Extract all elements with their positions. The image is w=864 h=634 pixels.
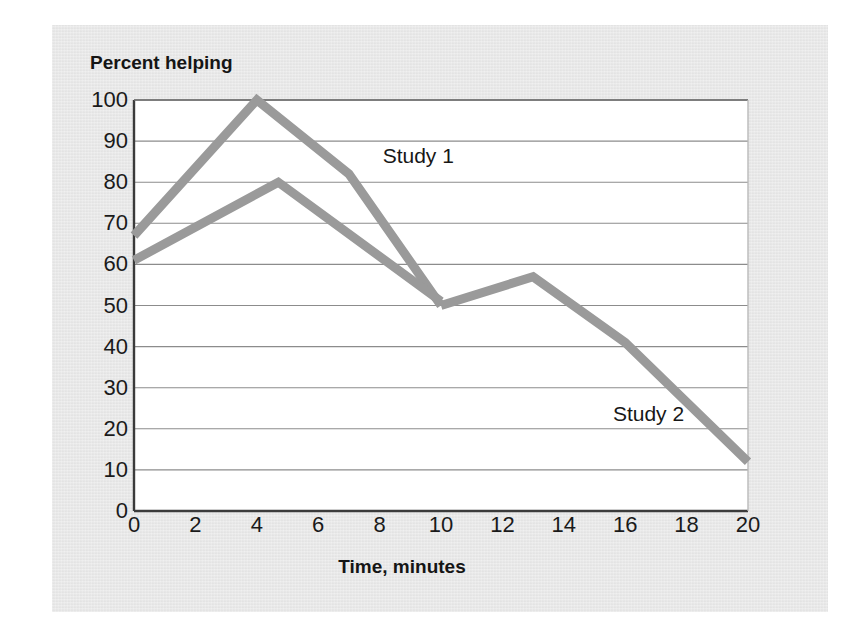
x-tick-label: 12: [490, 512, 514, 538]
x-tick-label: 10: [429, 512, 453, 538]
y-tick-label: 20: [82, 416, 128, 442]
x-tick-label: 20: [736, 512, 760, 538]
y-tick: 90: [82, 141, 128, 167]
y-tick-label: 50: [82, 293, 128, 319]
y-tick: 30: [82, 388, 128, 414]
y-tick-label: 80: [82, 169, 128, 195]
x-tick-label: 8: [373, 512, 385, 538]
y-tick-label: 40: [82, 334, 128, 360]
y-tick: 40: [82, 347, 128, 373]
y-tick: 50: [82, 306, 128, 332]
y-tick-label: 0: [82, 498, 128, 524]
y-tick: 100: [82, 100, 128, 126]
x-tick-label: 6: [312, 512, 324, 538]
y-tick-label: 10: [82, 457, 128, 483]
y-tick: 0: [82, 511, 128, 537]
x-tick-label: 2: [189, 512, 201, 538]
y-tick: 80: [82, 182, 128, 208]
x-tick-label: 4: [251, 512, 263, 538]
y-tick-label: 100: [82, 87, 128, 113]
line-chart: Percent helping Time, minutes 1009080706…: [0, 0, 864, 634]
x-tick-label: 16: [613, 512, 637, 538]
y-tick: 60: [82, 264, 128, 290]
x-tick-label: 14: [552, 512, 576, 538]
y-tick: 10: [82, 470, 128, 496]
y-tick-label: 30: [82, 375, 128, 401]
plot-area: [0, 0, 864, 634]
x-tick-label: 0: [128, 512, 140, 538]
series-label-2: Study 2: [613, 402, 684, 426]
y-tick-label: 90: [82, 128, 128, 154]
y-tick-label: 70: [82, 210, 128, 236]
y-tick-label: 60: [82, 251, 128, 277]
y-tick: 70: [82, 223, 128, 249]
series-label-1: Study 1: [383, 144, 454, 168]
x-tick-label: 18: [674, 512, 698, 538]
y-tick: 20: [82, 429, 128, 455]
